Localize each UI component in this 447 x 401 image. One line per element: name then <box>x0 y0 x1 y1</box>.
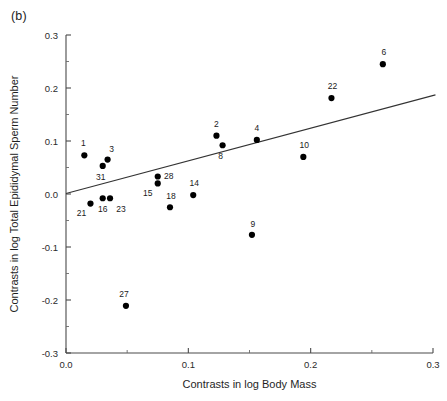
data-point-label: 2 <box>214 119 219 129</box>
data-point-marker <box>123 303 129 309</box>
data-point-label: 14 <box>189 178 199 188</box>
data-point-label: 18 <box>166 191 176 201</box>
x-tick-label: 0.3 <box>426 359 439 370</box>
data-point-label: 3 <box>109 144 114 154</box>
data-point-marker <box>249 232 255 238</box>
data-point-label: 10 <box>300 140 310 150</box>
x-tick-label: 0.0 <box>59 359 72 370</box>
data-point-marker <box>107 195 113 201</box>
data-point-marker <box>100 163 106 169</box>
y-tick-label: -0.2 <box>42 295 58 306</box>
data-point-marker <box>300 154 306 160</box>
data-point-marker <box>254 137 260 143</box>
y-tick-label: -0.1 <box>42 242 58 253</box>
data-point-marker <box>167 204 173 210</box>
trend-line <box>66 95 435 194</box>
trend-line-group <box>66 95 435 194</box>
data-point-label: 6 <box>381 47 386 57</box>
data-point-marker <box>100 195 106 201</box>
x-tick-label: 0.1 <box>182 359 195 370</box>
data-point-label: 4 <box>254 123 259 133</box>
ticks-group <box>66 35 433 353</box>
data-point-marker <box>81 152 87 158</box>
axes-group <box>66 35 433 353</box>
data-point-marker <box>328 95 334 101</box>
data-point-marker <box>155 180 161 186</box>
data-point-label: 1 <box>81 138 86 148</box>
y-tick-label: 0.0 <box>45 189 58 200</box>
x-tick-label: 0.2 <box>304 359 317 370</box>
scatter-plot: 0.00.10.20.3-0.3-0.2-0.10.00.10.20.3 133… <box>0 0 447 401</box>
y-axis-title: Contrasts in log Total Epididymal Sperm … <box>8 75 20 312</box>
data-point-marker <box>219 142 225 148</box>
data-point-label: 31 <box>96 172 106 182</box>
data-point-marker <box>190 192 196 198</box>
data-point-label: 28 <box>164 171 174 181</box>
data-point-label: 21 <box>77 208 87 218</box>
y-tick-label: -0.3 <box>42 348 58 359</box>
y-tick-label: 0.3 <box>45 30 58 41</box>
y-tick-label: 0.1 <box>45 136 58 147</box>
data-point-marker <box>213 133 219 139</box>
data-point-label: 16 <box>98 204 108 214</box>
axis-titles-group: Contrasts in log Body MassContrasts in l… <box>8 75 317 390</box>
data-point-label: 23 <box>116 204 126 214</box>
x-axis-title: Contrasts in log Body Mass <box>183 378 317 390</box>
data-point-marker <box>104 156 110 162</box>
data-point-label: 8 <box>218 151 223 161</box>
data-point-label: 15 <box>143 188 153 198</box>
data-point-marker <box>380 61 386 67</box>
y-tick-label: 0.2 <box>45 83 58 94</box>
data-point-marker <box>155 173 161 179</box>
data-point-label: 27 <box>119 289 129 299</box>
data-point-marker <box>87 200 93 206</box>
figure-panel-b: (b) 0.00.10.20.3-0.3-0.2-0.10.00.10.20.3… <box>0 0 447 401</box>
data-point-label: 9 <box>251 219 256 229</box>
data-point-label: 22 <box>328 81 338 91</box>
